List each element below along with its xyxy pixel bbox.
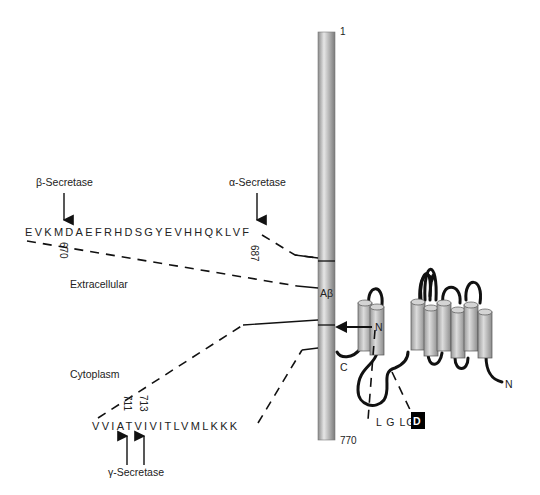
residue-687: 687: [249, 245, 260, 262]
app-n-terminus-label: 1: [340, 26, 346, 37]
residue-713: 713: [138, 395, 149, 412]
presenilin-n-label: N: [375, 321, 383, 333]
beta-secretase-label: β-Secretase: [36, 176, 93, 188]
presenilin-c-label: C: [340, 361, 348, 373]
residue-711: 711: [122, 395, 133, 411]
alpha-cleavage-connector: [262, 235, 318, 258]
abeta-label: Aβ: [320, 287, 333, 299]
extracellular-sequence: EVKMDAEFRHDSGYEVHHQKLVF: [25, 226, 251, 238]
app-rod: [318, 32, 335, 440]
transmembrane-sequence: VVIATVIVITLVMLKKK: [92, 420, 240, 432]
presenilin-protein: [335, 269, 502, 420]
presenilin-n-terminus-label: N: [505, 378, 513, 390]
residue-670: 670: [58, 242, 69, 259]
cytoplasm-label: Cytoplasm: [70, 368, 120, 380]
motif-text: L G LG: [376, 416, 415, 428]
app-processing-diagram: Extracellular Cytoplasm 1 770 Aβ β-Secre…: [0, 0, 540, 495]
motif-highlight: D: [413, 415, 421, 427]
extracellular-label: Extracellular: [70, 278, 128, 290]
alpha-secretase-label: α-Secretase: [229, 176, 286, 188]
app-c-terminus-label: 770: [340, 435, 357, 446]
gamma-secretase-label: γ-Secretase: [108, 466, 164, 478]
